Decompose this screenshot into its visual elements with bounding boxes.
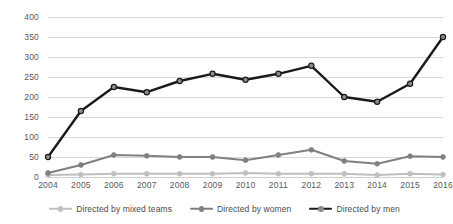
data-point bbox=[243, 158, 248, 163]
data-point bbox=[375, 99, 380, 104]
x-axis-tick-label: 2009 bbox=[203, 180, 223, 190]
x-axis-tick-label: 2005 bbox=[71, 180, 91, 190]
data-point bbox=[111, 84, 116, 89]
data-point bbox=[79, 163, 84, 168]
legend-item-1[interactable]: Directed by mixed teams bbox=[49, 204, 172, 214]
data-point bbox=[441, 155, 446, 160]
data-point bbox=[276, 71, 281, 76]
x-axis-tick-label: 2007 bbox=[137, 180, 157, 190]
data-point bbox=[210, 171, 215, 176]
chart-legend: Directed by mixed teamsDirected by women… bbox=[0, 199, 449, 219]
y-axis-tick-label: 200 bbox=[24, 92, 39, 102]
y-axis-tick-label: 100 bbox=[24, 132, 39, 142]
x-axis-tick-label: 2014 bbox=[367, 180, 387, 190]
data-point bbox=[177, 155, 182, 160]
y-axis-tick-label: 350 bbox=[24, 32, 39, 42]
data-point bbox=[309, 171, 314, 176]
data-point bbox=[441, 172, 446, 177]
series-3 bbox=[45, 34, 445, 159]
series-line bbox=[48, 37, 443, 157]
data-point bbox=[45, 154, 50, 159]
y-axis-tick-label: 150 bbox=[24, 112, 39, 122]
data-point bbox=[342, 171, 347, 176]
data-point bbox=[243, 171, 248, 176]
data-point bbox=[342, 94, 347, 99]
series-1 bbox=[46, 171, 446, 178]
x-axis-tick-label: 2012 bbox=[301, 180, 321, 190]
data-point bbox=[144, 171, 149, 176]
legend-marker-icon bbox=[190, 204, 213, 214]
legend-item-3[interactable]: Directed by men bbox=[309, 204, 399, 214]
gridline-0 bbox=[48, 177, 443, 178]
data-point bbox=[309, 63, 314, 68]
data-point bbox=[276, 153, 281, 158]
x-axis-tick-label: 2004 bbox=[38, 180, 58, 190]
legend-marker-icon bbox=[309, 204, 332, 214]
data-point bbox=[177, 78, 182, 83]
y-axis-tick-label: 400 bbox=[24, 12, 39, 22]
data-point bbox=[144, 153, 149, 158]
data-point bbox=[276, 171, 281, 176]
data-point bbox=[243, 77, 248, 82]
x-axis-tick-label: 2013 bbox=[334, 180, 354, 190]
legend-label: Directed by women bbox=[217, 204, 291, 214]
y-axis-tick-label: 300 bbox=[24, 52, 39, 62]
data-point bbox=[210, 155, 215, 160]
x-axis-tick-label: 2016 bbox=[433, 180, 453, 190]
data-point bbox=[440, 34, 445, 39]
data-point bbox=[309, 147, 314, 152]
data-point bbox=[111, 171, 116, 176]
data-point bbox=[408, 171, 413, 176]
data-point bbox=[407, 81, 412, 86]
plot-area bbox=[48, 17, 443, 177]
data-point bbox=[375, 161, 380, 166]
x-axis-tick-label: 2011 bbox=[269, 180, 288, 190]
y-axis-tick-label: 50 bbox=[29, 152, 39, 162]
legend-item-2[interactable]: Directed by women bbox=[190, 204, 291, 214]
data-point bbox=[79, 172, 84, 177]
data-point bbox=[408, 154, 413, 159]
data-point bbox=[210, 71, 215, 76]
data-point bbox=[144, 90, 149, 95]
legend-marker-icon bbox=[49, 204, 72, 214]
data-point bbox=[46, 171, 51, 176]
x-axis: 2004200520062007200820092010201120122013… bbox=[48, 180, 443, 194]
data-point bbox=[342, 159, 347, 164]
x-axis-tick-label: 2008 bbox=[170, 180, 190, 190]
x-axis-tick-label: 2010 bbox=[236, 180, 256, 190]
data-point bbox=[78, 108, 83, 113]
y-axis-tick-label: 250 bbox=[24, 72, 39, 82]
series-layer bbox=[48, 17, 443, 177]
legend-label: Directed by mixed teams bbox=[76, 204, 172, 214]
y-axis: 050100150200250300350400 bbox=[0, 17, 44, 177]
x-axis-tick-label: 2015 bbox=[400, 180, 420, 190]
legend-label: Directed by men bbox=[336, 204, 399, 214]
data-point bbox=[375, 173, 380, 178]
x-axis-tick-label: 2006 bbox=[104, 180, 124, 190]
data-point bbox=[177, 171, 182, 176]
data-point bbox=[111, 153, 116, 158]
